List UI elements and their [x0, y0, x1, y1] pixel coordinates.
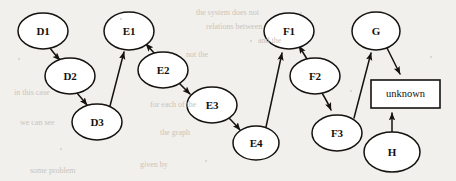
edge-E3-E4: [228, 117, 240, 130]
node-H[interactable]: H: [364, 132, 420, 172]
edge-D3-E1: [110, 52, 124, 106]
node-E4[interactable]: E4: [233, 126, 279, 160]
edge-F2-F1: [299, 46, 307, 59]
node-F2[interactable]: F2: [290, 58, 340, 94]
edge-D2-D3: [77, 93, 87, 105]
node-unknown[interactable]: unknown: [371, 80, 440, 108]
node-D3[interactable]: D3: [72, 104, 122, 140]
edge-G-unknown: [387, 48, 400, 74]
diagram-canvas: the system does notrelations betweenand …: [0, 0, 456, 181]
nodes-layer: D1 D2 D3 E1 E2 E3: [18, 12, 440, 172]
edge-F2-F3: [322, 93, 331, 110]
edge-E4-F1: [266, 53, 282, 127]
node-F1[interactable]: F1: [264, 13, 314, 49]
node-D1[interactable]: D1: [18, 13, 68, 49]
edge-D1-D2: [50, 48, 60, 60]
node-G[interactable]: G: [352, 12, 400, 50]
node-label-D1: D1: [36, 25, 49, 37]
node-label-H: H: [388, 146, 397, 158]
edge-F3-G: [354, 53, 371, 118]
dependency-graph: D1 D2 D3 E1 E2 E3: [0, 0, 456, 181]
node-E3[interactable]: E3: [187, 87, 237, 123]
node-label-unknown: unknown: [386, 88, 426, 99]
node-label-F1: F1: [283, 25, 295, 37]
node-E1[interactable]: E1: [104, 12, 154, 50]
node-E2[interactable]: E2: [138, 52, 188, 88]
node-label-F3: F3: [331, 127, 344, 139]
node-label-E2: E2: [157, 64, 170, 76]
node-label-D3: D3: [90, 116, 104, 128]
node-F3[interactable]: F3: [312, 115, 362, 151]
node-label-D2: D2: [63, 70, 77, 82]
node-label-F2: F2: [309, 70, 322, 82]
node-label-E1: E1: [123, 25, 135, 37]
node-label-E4: E4: [250, 137, 263, 149]
node-D2[interactable]: D2: [45, 58, 95, 94]
node-label-G: G: [372, 25, 381, 37]
node-label-E3: E3: [206, 99, 219, 111]
